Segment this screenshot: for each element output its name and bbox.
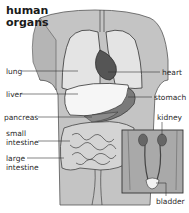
diagram-title: human organs xyxy=(6,5,49,29)
label-heart: heart xyxy=(162,68,182,77)
label-large-intestine-1: large xyxy=(6,154,25,163)
label-lung: lung xyxy=(6,67,22,76)
right-kidney xyxy=(158,134,167,146)
label-small-intestine-2: intestine xyxy=(6,138,39,147)
label-large-intestine-2: intestine xyxy=(6,163,39,172)
label-bladder: bladder xyxy=(156,197,185,206)
human-organs-illustration xyxy=(0,0,189,213)
kidney-inset xyxy=(122,130,183,193)
title-line-2: organs xyxy=(6,17,49,29)
label-kidney: kidney xyxy=(157,113,182,122)
label-pancreas: pancreas xyxy=(4,113,38,122)
label-stomach: stomach xyxy=(154,93,186,102)
label-small-intestine-1: small xyxy=(6,129,26,138)
label-liver: liver xyxy=(6,90,22,99)
left-kidney xyxy=(139,134,148,146)
